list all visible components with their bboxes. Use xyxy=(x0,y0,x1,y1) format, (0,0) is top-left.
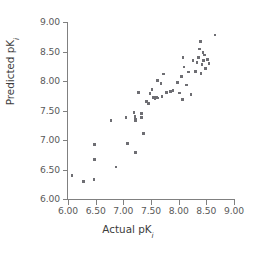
data-point xyxy=(203,54,206,57)
y-tick-label: 9.00 xyxy=(14,16,60,27)
data-point xyxy=(71,174,74,177)
data-point xyxy=(199,40,202,43)
data-point xyxy=(149,92,152,95)
data-point xyxy=(125,116,128,119)
data-point xyxy=(214,34,217,37)
data-point xyxy=(126,142,129,145)
y-tick-label: 7.50 xyxy=(14,105,60,116)
data-point xyxy=(133,111,136,114)
data-point xyxy=(151,88,154,91)
data-point xyxy=(165,91,168,94)
x-axis-label-subscript: i xyxy=(151,231,153,240)
data-point xyxy=(134,119,137,122)
data-point xyxy=(137,91,140,94)
plot-data-area xyxy=(68,22,234,199)
data-point xyxy=(201,63,204,66)
data-point xyxy=(187,71,190,74)
data-point xyxy=(192,59,195,62)
data-point xyxy=(156,97,159,100)
x-axis-label-text: Actual pK xyxy=(102,223,151,235)
data-point xyxy=(200,72,203,75)
data-point xyxy=(190,93,193,96)
data-point xyxy=(172,89,175,92)
data-point xyxy=(206,58,209,61)
x-axis-label: Actual pKi xyxy=(0,223,256,238)
data-point xyxy=(185,84,188,87)
data-point xyxy=(180,75,183,78)
y-tick-label: 8.50 xyxy=(14,46,60,57)
data-point xyxy=(176,81,179,84)
scatter-plot-figure: Actual pKi Predicted pKi 6.006.507.007.5… xyxy=(0,0,256,253)
data-point xyxy=(160,82,163,85)
data-point xyxy=(156,79,159,82)
x-tick-label: 9.00 xyxy=(214,205,254,216)
y-tick-label: 6.50 xyxy=(14,164,60,175)
data-point xyxy=(110,119,113,122)
data-point xyxy=(142,132,145,135)
data-point xyxy=(115,166,118,169)
data-point xyxy=(183,66,186,69)
data-point xyxy=(134,151,137,154)
data-point xyxy=(182,56,185,59)
data-point xyxy=(140,112,143,115)
data-point xyxy=(178,92,181,95)
data-point xyxy=(82,180,85,183)
data-point xyxy=(202,59,205,62)
data-point xyxy=(197,56,200,59)
y-tick-label: 8.00 xyxy=(14,75,60,86)
data-point xyxy=(181,98,184,101)
data-point xyxy=(147,102,150,105)
data-point xyxy=(204,67,207,70)
data-point xyxy=(196,61,199,64)
data-point xyxy=(194,70,197,73)
data-point xyxy=(140,116,143,119)
data-point xyxy=(208,62,211,65)
data-point xyxy=(93,178,96,181)
data-point xyxy=(161,95,164,98)
y-tick-label: 7.00 xyxy=(14,134,60,145)
data-point xyxy=(93,158,96,161)
data-point xyxy=(198,48,201,51)
data-point xyxy=(162,73,165,76)
data-point xyxy=(93,143,96,146)
y-tick-label: 6.00 xyxy=(14,193,60,204)
